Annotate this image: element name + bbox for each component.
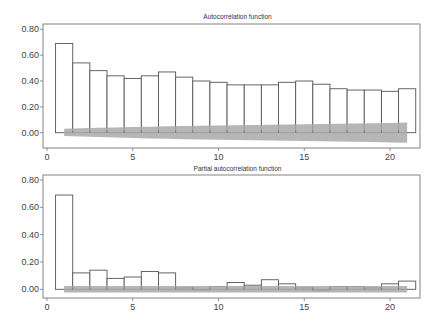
x-tick-label: 20 xyxy=(385,302,395,312)
y-tick-label: 0.00 xyxy=(21,284,39,294)
x-tick-label: 15 xyxy=(299,302,309,312)
y-tick-label: 0.20 xyxy=(21,257,39,267)
pacf-chart: Partial autocorrelation function0.000.20… xyxy=(0,0,440,329)
confidence-band xyxy=(64,286,407,293)
bar-lag-1 xyxy=(56,195,73,289)
y-tick-label: 0.40 xyxy=(21,230,39,240)
x-tick-label: 5 xyxy=(130,302,135,312)
correlogram-figure: Autocorrelation function0.000.200.400.60… xyxy=(0,0,440,329)
y-tick-label: 0.60 xyxy=(21,202,39,212)
x-tick-label: 10 xyxy=(213,302,223,312)
x-tick-label: 0 xyxy=(44,302,49,312)
chart-title: Partial autocorrelation function xyxy=(194,165,282,172)
y-tick-label: 0.80 xyxy=(21,175,39,185)
bars-group xyxy=(56,195,416,291)
